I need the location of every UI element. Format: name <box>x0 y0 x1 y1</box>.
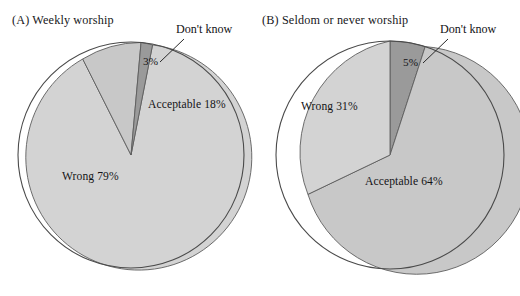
panel-a-pie <box>0 0 260 296</box>
panel-b-dontknow-value-label: 5% <box>403 56 418 68</box>
panel-a-weekly-worship: (A) Weekly worship Don't know 3% Accepta… <box>0 0 260 296</box>
panel-b-acceptable-label: Acceptable 64% <box>365 175 443 188</box>
panel-a-dontknow-callout-label: Don't know <box>176 22 232 37</box>
pie-chart-figure: (A) Weekly worship Don't know 3% Accepta… <box>0 0 520 296</box>
panel-a-dontknow-value-label: 3% <box>143 55 158 67</box>
panel-b-seldom-never-worship: (B) Seldom or never worship Don't know 5… <box>260 0 520 296</box>
panel-b-pie <box>260 0 520 296</box>
panel-b-dontknow-callout-label: Don't know <box>440 22 496 37</box>
panel-a-wrong-label: Wrong 79% <box>62 170 119 183</box>
panel-b-wrong-label: Wrong 31% <box>301 100 358 113</box>
panel-a-acceptable-label: Acceptable 18% <box>148 98 226 111</box>
